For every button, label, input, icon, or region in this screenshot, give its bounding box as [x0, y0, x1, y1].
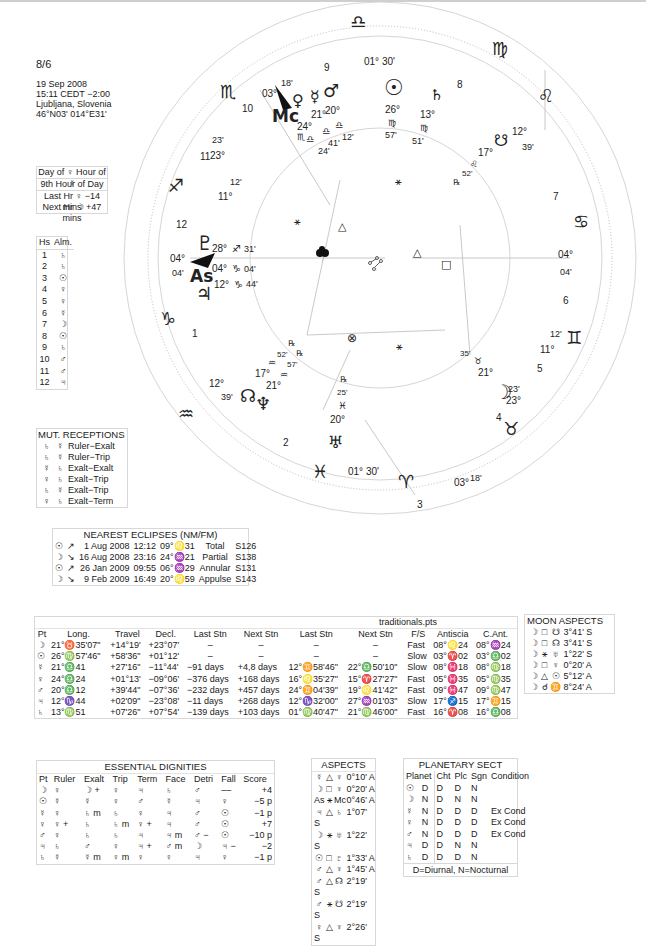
house-7-label: 7 [553, 191, 559, 202]
traditionals-row: ☽21°♉35'07"+14°19'+23°07'––––Fast08°♌240… [35, 640, 517, 651]
aspect-row: ♃△♄ 1°07' S [312, 807, 375, 830]
mc-minute: 18' [281, 78, 293, 88]
south-node-retro-icon: ℞ [453, 178, 460, 187]
sect-row: ☽NDNN [404, 794, 531, 806]
trine-aspect-icon: △ [413, 246, 422, 259]
sextile-aspect-icon: ⚹ [396, 340, 403, 353]
house-1-label: 1 [192, 328, 198, 339]
cancer-sign-icon: ♋ [573, 211, 589, 232]
cusp-2-minute: 39' [221, 392, 233, 402]
house-5-label: 5 [537, 363, 543, 374]
moon-aspect-row: ☽□☋ 3°41' S [525, 627, 614, 638]
moon-aspects-title: MOON ASPECTS [525, 615, 614, 627]
cusp-6-degree: 11° [540, 344, 554, 355]
jupiter-sign-icon: ♑ [234, 279, 243, 290]
gemini-sign-icon: ♊ [566, 327, 582, 348]
uranus-retro-icon: ℞ [340, 375, 347, 384]
cusp-6-minute: 12' [550, 329, 562, 339]
taurus-sign-icon: ♉ [503, 418, 519, 439]
mars-icon: ♂ [323, 80, 339, 101]
aspect-row: ♂△☊ 2°19' S [312, 876, 375, 899]
house-8-label: 8 [457, 79, 463, 90]
sect-row: ♂NDDDEx Cond [404, 829, 531, 841]
cusp-3-degree: 01° 30' [348, 466, 379, 477]
traditionals-row: ♄13°♍51+07'26"+07°54'−139 days+103 days0… [35, 707, 517, 718]
asc-sign-icon: ♑ [232, 263, 241, 274]
traditionals-row: ♂20°♎12+39'44"−07°36'−232 days+457 days2… [35, 685, 517, 696]
saturn-degree: 13° [420, 109, 435, 120]
asc-minute: 04' [172, 268, 184, 278]
sect-legend: D=Diurnal, N=Nocturnal [404, 863, 517, 876]
dignities-row: ♄☿☿ m♀ m♀♀♃♀−1 p [37, 852, 274, 863]
moon-aspect-row: ☽□☊ 3°41' S [525, 638, 614, 649]
house-9-label: 9 [324, 62, 330, 73]
uranus-icon: ♅ [328, 432, 343, 452]
mc-sign-icon: ♏ [297, 132, 305, 142]
aries-sign-icon: ♈ [398, 471, 414, 492]
aspect-lines [307, 180, 470, 410]
south-node-icon: ☋ [494, 131, 508, 150]
leo-sign-icon: ♌ [538, 85, 554, 106]
dignities-row: ♂♀♄♄♃♃ m♂ −☉−10 p [37, 830, 274, 841]
moon-minute: 35' [460, 349, 471, 358]
sect-row: ☉DDDN [404, 783, 531, 795]
part-of-fortune-icon: ⊗ [347, 331, 357, 345]
cusp-8-minute: 39' [522, 142, 534, 152]
scorpio-sign-icon: ♏ [220, 81, 236, 102]
mc-degree: 03° [262, 88, 277, 99]
house-3-label: 3 [417, 499, 423, 510]
square-aspect-icon: □ [441, 258, 451, 271]
sect-header: PlanetChtPlcSgnCondition [404, 771, 531, 783]
aspect-row: ♀△♆ 2°26' S [312, 922, 375, 945]
planetary-sect-table: PLANETARY SECT PlanetChtPlcSgnCondition … [403, 758, 518, 877]
cusp-8-degree: 12° [512, 126, 527, 137]
pluto-sign-icon: ♐ [232, 243, 241, 254]
uranus-sign-icon: ♓ [338, 400, 347, 411]
traditionals-row: ☿21°♎41+27'16"−11°44'−91 days+4,8 days12… [35, 662, 517, 673]
dignities-row: ♀♀ +♄♄ m♀ +♃♂☉+7 [37, 819, 274, 830]
dignities-row: ☿♀♄ m♄♀♃♂☉−1 p [37, 808, 274, 819]
mercury-icon: ☿ [310, 87, 320, 106]
north-node-sign-icon: ♒ [268, 358, 276, 368]
cusp-2-degree: 12° [209, 378, 224, 389]
neptune-sign-icon: ♒ [280, 370, 288, 380]
traditionals-row: ☉26°♍57'46"+58'36"+01°12'––––Slow03°♈020… [35, 651, 517, 662]
ic-degree: 03° [454, 477, 469, 488]
mercury-sign-icon: ♎ [322, 126, 330, 136]
sect-row: ☿NDDDEx Cond [404, 806, 531, 818]
aspect-row: ☿△♆ 0°10' A [312, 772, 375, 784]
north-node-minute: 52' [277, 350, 288, 359]
aquarius-sign-icon: ♒ [178, 403, 194, 424]
cusp-12-minute: 12' [230, 177, 242, 187]
asc-planet-degree: 04° [212, 263, 227, 274]
north-node-retro-icon: ℞ [288, 339, 295, 348]
neptune-degree: 21° [266, 380, 281, 391]
sun-icon: ☉ [384, 75, 404, 100]
sect-row: ♄DDDN [404, 852, 531, 864]
traditionals-row: ♃12°♑44+02'09"−23°08'−11 days+268 days12… [35, 696, 517, 707]
opposition-icon [369, 257, 383, 271]
cusp-9-degree: 01° 30' [364, 56, 395, 67]
mars-minute: 12' [342, 132, 354, 142]
traditionals-row: ♀24°♎24+01°13'−09°06'−376 days+168 days1… [35, 674, 517, 685]
uranus-minute: 25' [337, 388, 348, 397]
moon-aspect-row: ☽△☉ 5°12' A [525, 671, 614, 682]
conjunction-cluster-icon [316, 246, 329, 257]
cusp-12-degree: 11° [218, 191, 232, 202]
aspect-row: ♂△♆ 1°45' A [312, 864, 375, 876]
saturn-sign-icon: ♍ [420, 123, 428, 133]
mercury-minute: 41' [328, 138, 340, 148]
moon-aspect-row: ☽⚹♅ 1°22' S [525, 649, 614, 660]
dignities-title: ESSENTIAL DIGNITIES [37, 761, 274, 774]
virgo-sign-icon: ♍ [492, 38, 508, 59]
north-node-icon: ☊ [240, 385, 256, 406]
mars-sign-icon: ♎ [335, 120, 343, 130]
aspects-box: ASPECTS ☿△♆ 0°10' A ☽□♆ 0°20' A As⚹Mc 0°… [311, 758, 376, 946]
house-12-label: 12 [176, 219, 188, 230]
aspect-row: As⚹Mc 0°46' A [312, 795, 375, 807]
house-4-label: 4 [496, 412, 502, 423]
jupiter-icon: ♃ [196, 283, 212, 304]
dignities-row: ☉☿☿♀♂☿♃♀−5 p [37, 796, 274, 807]
dignities-row: ☽♀☽ +♀♃♄♂––+4 [37, 785, 274, 796]
mars-degree: 20° [325, 105, 340, 116]
